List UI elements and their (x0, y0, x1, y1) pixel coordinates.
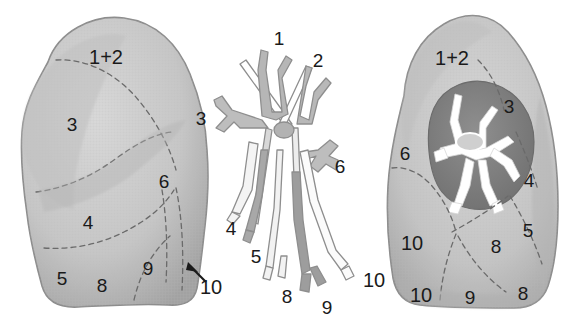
segment-label-6: 6 (159, 172, 170, 191)
segment-label-1-plus-2: 1+2 (89, 47, 123, 67)
segment-label-8: 8 (282, 287, 293, 306)
segment-label-9: 9 (465, 288, 476, 307)
segment-label-5: 5 (523, 221, 534, 240)
segment-label-3: 3 (67, 115, 78, 134)
segment-label-6: 6 (400, 144, 411, 163)
segment-label-6: 6 (335, 157, 346, 176)
segment-label-3: 3 (504, 97, 515, 116)
lung-segments-illustration (0, 0, 581, 321)
segment-label-1: 1 (274, 29, 285, 48)
panel-right-lung-medial (387, 16, 558, 309)
segment-label-8: 8 (491, 237, 502, 256)
bronchus-carina (274, 122, 294, 138)
segment-label-10: 10 (200, 277, 222, 297)
segment-label-5: 5 (57, 269, 68, 288)
segment-label-3: 3 (196, 109, 207, 128)
segment-label-2: 2 (313, 51, 324, 70)
segment-label-9: 9 (143, 259, 154, 278)
panel-bronchial-tree (214, 50, 354, 292)
segment-label-8: 8 (518, 284, 529, 303)
segment-label-1-plus-2: 1+2 (435, 48, 469, 68)
segment-label-10: 10 (410, 285, 432, 305)
segment-label-10: 10 (363, 270, 385, 290)
bronchus-segment-8 (266, 150, 283, 268)
segment-label-8: 8 (97, 276, 108, 295)
segment-label-4: 4 (524, 171, 535, 190)
segment-label-10: 10 (401, 233, 423, 253)
bronchus-segment-3 (214, 96, 268, 132)
segment-label-4: 4 (83, 213, 94, 232)
segment-label-5: 5 (251, 247, 262, 266)
segment-label-4: 4 (226, 219, 237, 238)
segment-label-9: 9 (322, 298, 333, 317)
